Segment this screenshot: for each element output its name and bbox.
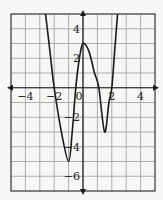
x-axis-arrow-right-icon <box>153 85 159 91</box>
x-tick-label: 4 <box>137 90 144 103</box>
function-graph: −4−202442−2−4−6 <box>0 0 163 200</box>
tick-labels: −4−202442−2−4−6 <box>17 23 144 184</box>
y-axis-arrow-down-icon <box>80 189 86 195</box>
x-axis-arrow-left-icon <box>7 85 13 91</box>
y-axis-arrow-up-icon <box>80 10 86 16</box>
x-tick-label: 0 <box>76 90 83 103</box>
x-tick-label: −4 <box>17 90 33 103</box>
y-tick-label: −2 <box>64 111 80 124</box>
y-tick-label: −6 <box>64 170 80 183</box>
y-tick-label: 4 <box>73 23 80 36</box>
